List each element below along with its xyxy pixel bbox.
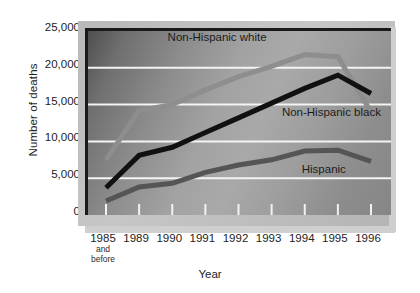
plot-area: [85, 28, 391, 215]
x-axis-tick-label-year: 1985: [90, 232, 116, 244]
x-axis-tick-label-year: 1989: [123, 232, 149, 244]
x-axis-tick-label-year: 1995: [322, 232, 348, 244]
x-axis-tick-labels: 1985andbefore198919901991199219931994199…: [0, 232, 420, 272]
y-axis-tick-label: 15,000: [22, 95, 80, 107]
series-annotation-label: Hispanic: [302, 163, 346, 175]
x-axis-title: Year: [0, 268, 420, 280]
x-axis-tick-label-year: 1991: [190, 232, 216, 244]
x-axis-tick-label-year: 1990: [156, 232, 182, 244]
x-axis-tick-marks: [106, 204, 371, 215]
x-axis-tick-label: 1996: [345, 232, 391, 244]
x-axis-tick-label-year: 1993: [256, 232, 282, 244]
x-axis-tick-label-year: 1996: [355, 232, 381, 244]
y-axis-tick-label: 0: [22, 205, 80, 217]
x-axis-tick-label-year: 1992: [223, 232, 249, 244]
y-axis-tick-label: 20,000: [22, 58, 80, 70]
chart-figure: Number of deaths 05,00010,00015,00020,00…: [0, 0, 420, 293]
x-axis-tick-sublabel: before: [80, 254, 126, 264]
series-line: [106, 150, 371, 201]
plot-canvas: [88, 31, 391, 215]
x-axis-tick-label-year: 1994: [289, 232, 315, 244]
x-axis-tick-sublabel: and: [80, 244, 126, 254]
series-annotation-label: Non-Hispanic black: [282, 106, 381, 118]
y-axis-tick-label: 10,000: [22, 131, 80, 143]
y-axis-tick-label: 25,000: [22, 21, 80, 33]
series-annotation-label: Non-Hispanic white: [168, 31, 267, 43]
y-axis-tick-label: 5,000: [22, 168, 80, 180]
